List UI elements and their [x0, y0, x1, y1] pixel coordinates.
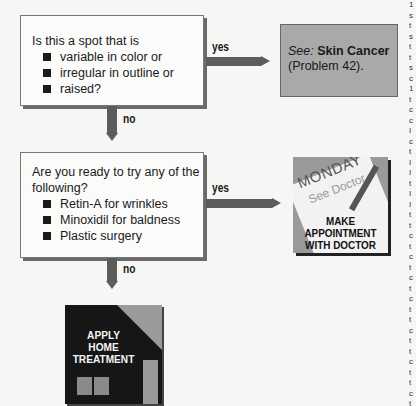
- question2-intro-line1: Are you ready to try any of the: [32, 164, 199, 180]
- square-bullet-icon: [43, 53, 51, 61]
- question1-intro: Is this a spot that is: [32, 33, 174, 49]
- no-arrow-down-icon: [107, 106, 117, 133]
- reference-line1: See: Skin Cancer: [288, 44, 397, 59]
- square-bullet-icon: [43, 69, 51, 77]
- yes-label: yes: [212, 40, 229, 54]
- no-label: no: [123, 262, 135, 276]
- square-bullet-icon: [43, 200, 51, 208]
- question2-bullet-list: Retin-A for wrinkles Minoxidil for baldn…: [32, 196, 199, 244]
- bullet-item: irregular in outline or: [32, 65, 174, 81]
- appointment-caption: MAKE APPOINTMENT WITH DOCTOR: [298, 215, 384, 251]
- square-bullet-icon: [43, 216, 51, 224]
- yes-arrow-right-icon: [206, 199, 272, 208]
- apply-home-treatment-icon: APPLY HOME TREATMENT: [65, 305, 162, 404]
- bullet-item: variable in color or: [32, 49, 174, 65]
- yes-arrow-right-icon: [206, 57, 261, 66]
- question1-box: Is this a spot that is variable in color…: [20, 15, 204, 106]
- bullet-item: Retin-A for wrinkles: [32, 196, 199, 212]
- bullet-item: Minoxidil for baldness: [32, 212, 199, 228]
- yes-label: yes: [212, 181, 229, 195]
- bullet-item: raised?: [32, 81, 174, 97]
- square-bullet-icon: [43, 232, 51, 240]
- reference-problem: (Problem 42).: [288, 59, 397, 74]
- clipped-page-text: 1 s t s t t s c 1 t c c I c t I I t I I …: [409, 0, 416, 406]
- question2-intro-line2: following?: [32, 180, 199, 196]
- square-bullet-icon: [43, 85, 51, 93]
- skin-cancer-reference-box: See: Skin Cancer (Problem 42).: [280, 24, 398, 97]
- reference-topic: Skin Cancer: [317, 44, 389, 58]
- question2-box: Are you ready to try any of the followin…: [20, 152, 204, 258]
- house-window-icon: [77, 377, 109, 395]
- make-appointment-icon: MONDAY See Doctor MAKE APPOINTMENT WITH …: [293, 157, 388, 253]
- no-arrow-down-icon: [107, 258, 117, 281]
- question2-content: Are you ready to try any of the followin…: [32, 164, 199, 244]
- question1-content: Is this a spot that is variable in color…: [32, 33, 174, 97]
- house-door-icon: [143, 360, 158, 404]
- question1-bullet-list: variable in color or irregular in outlin…: [32, 49, 174, 97]
- no-label: no: [123, 112, 135, 126]
- bullet-item: Plastic surgery: [32, 228, 199, 244]
- home-treatment-caption: APPLY HOME TREATMENT: [68, 329, 139, 365]
